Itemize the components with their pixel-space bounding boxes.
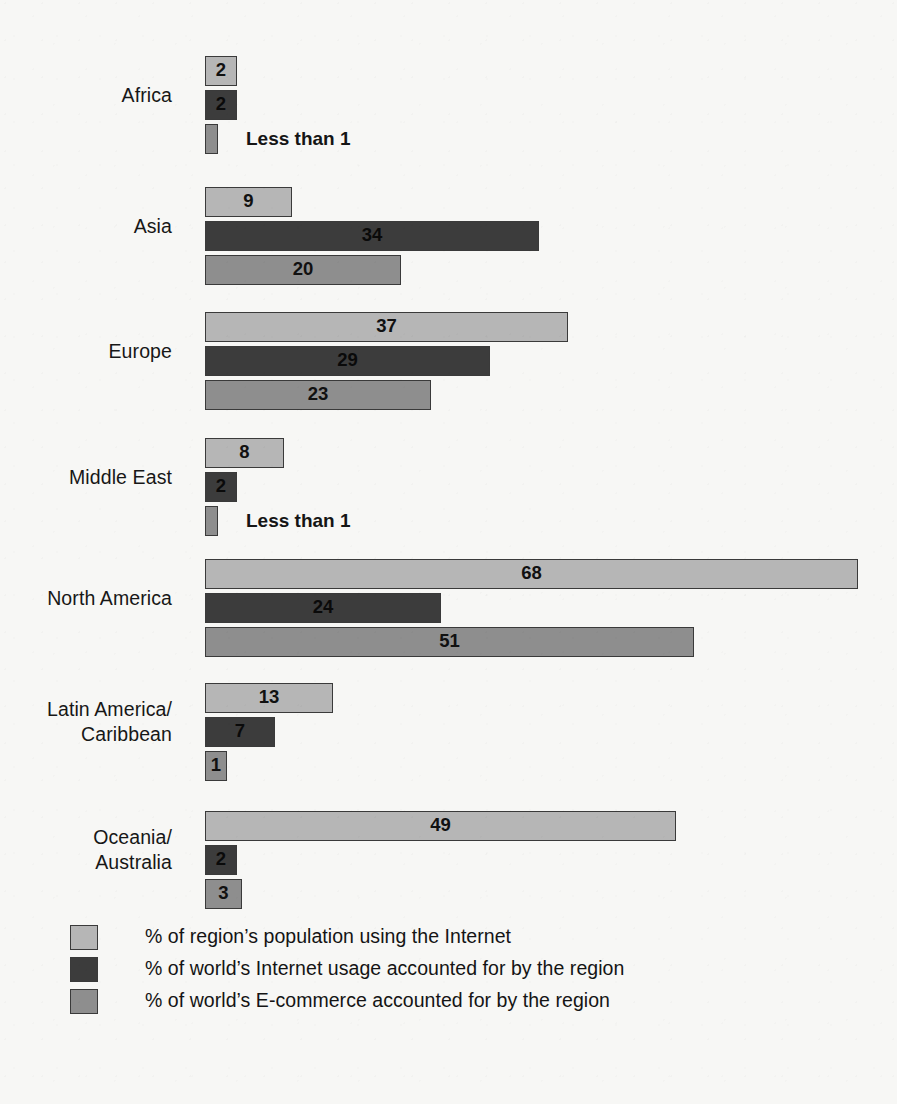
bar-value-label: 2 (216, 61, 226, 80)
legend-swatch (70, 989, 98, 1014)
bar[interactable]: 13 (205, 683, 333, 713)
bar[interactable]: 29 (205, 346, 490, 376)
bar-value-label: 23 (308, 385, 329, 404)
bar[interactable]: 49 (205, 811, 676, 841)
legend-label: % of world’s E-commerce accounted for by… (145, 991, 610, 1011)
bar[interactable]: 24 (205, 593, 441, 623)
bar-value-label: 68 (521, 564, 542, 583)
bar-value-label: 1 (211, 756, 221, 775)
group-label: Middle East (0, 465, 172, 490)
bar[interactable] (205, 506, 218, 536)
bar[interactable]: 9 (205, 187, 292, 217)
bar-value-label: 51 (439, 632, 460, 651)
bar[interactable]: 3 (205, 879, 242, 909)
legend-item[interactable]: % of world’s Internet usage accounted fo… (70, 953, 850, 985)
bar[interactable]: 37 (205, 312, 568, 342)
bar-value-label: 34 (362, 226, 383, 245)
bar[interactable]: 8 (205, 438, 284, 468)
bar[interactable]: 51 (205, 627, 694, 657)
bar-value-label: 7 (235, 722, 245, 741)
bar-chart: Africa22Less than 1Asia93420Europe372923… (0, 0, 897, 1104)
bar-value-label: 13 (259, 688, 280, 707)
bar[interactable]: 34 (205, 221, 539, 251)
bar[interactable] (205, 124, 218, 154)
bar-value-label: 49 (430, 816, 451, 835)
group-label: Latin America/ Caribbean (0, 697, 172, 747)
bar-value-label: 2 (216, 95, 226, 114)
group-label: Europe (0, 339, 172, 364)
bar[interactable]: 2 (205, 90, 237, 120)
bar-value-label: 8 (239, 443, 249, 462)
bar-value-label: 3 (218, 884, 228, 903)
bar-value-label: 37 (376, 317, 397, 336)
bar-value-label: 20 (293, 260, 314, 279)
bar-annotation: Less than 1 (246, 124, 351, 154)
group-label: Africa (0, 83, 172, 108)
bar[interactable]: 2 (205, 472, 237, 502)
bar[interactable]: 7 (205, 717, 275, 747)
bar-annotation: Less than 1 (246, 506, 351, 536)
legend-item[interactable]: % of world’s E-commerce accounted for by… (70, 985, 850, 1017)
bar[interactable]: 2 (205, 845, 237, 875)
bar-value-label: 2 (216, 477, 226, 496)
bar-value-label: 2 (216, 850, 226, 869)
legend-label: % of world’s Internet usage accounted fo… (145, 959, 624, 979)
group-label: Asia (0, 214, 172, 239)
bar-value-label: 24 (313, 598, 334, 617)
legend-label: % of region’s population using the Inter… (145, 927, 511, 947)
group-label: Oceania/ Australia (0, 825, 172, 875)
legend-item[interactable]: % of region’s population using the Inter… (70, 921, 850, 953)
group-label: North America (0, 586, 172, 611)
bar-value-label: 29 (337, 351, 358, 370)
bar[interactable]: 20 (205, 255, 401, 285)
bar[interactable]: 23 (205, 380, 431, 410)
legend-swatch (70, 957, 98, 982)
bar[interactable]: 2 (205, 56, 237, 86)
bar[interactable]: 1 (205, 751, 227, 781)
chart-legend: % of region’s population using the Inter… (70, 921, 850, 1017)
bar[interactable]: 68 (205, 559, 858, 589)
bar-value-label: 9 (243, 192, 253, 211)
legend-swatch (70, 925, 98, 950)
